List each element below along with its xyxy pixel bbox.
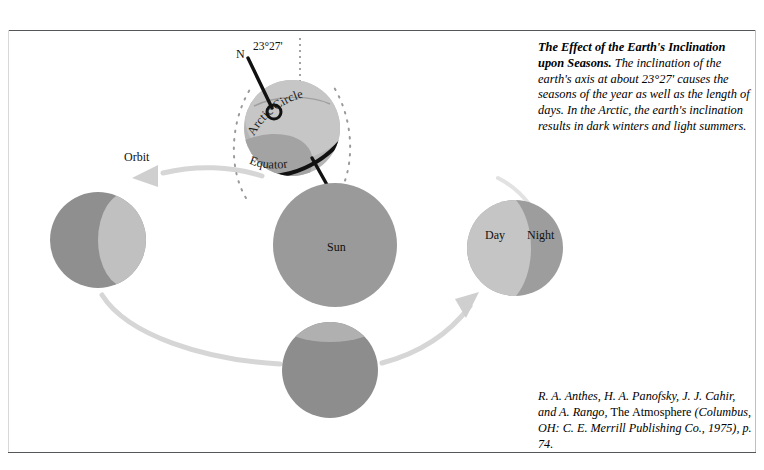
- axial-tilt-label: 23°27': [253, 40, 283, 52]
- earth-bottom-group: [282, 310, 378, 418]
- sun-label: Sun: [327, 240, 346, 255]
- earth-right-day-region: [467, 200, 531, 296]
- night-label: Night: [527, 228, 554, 243]
- figure-root: Arctic Circle Equator: [0, 0, 764, 470]
- citation-work-title: The Atmosphere: [611, 405, 692, 419]
- orbit-label: Orbit: [124, 150, 149, 165]
- orbit-arrowhead-left: [132, 165, 158, 187]
- earth-bottom-lit-cap: [284, 310, 376, 342]
- orbit-arc-upper-left: [163, 168, 262, 176]
- figure-caption: The Effect of the Earth's Inclination up…: [538, 40, 754, 135]
- orbit-arrowhead-right: [455, 292, 479, 318]
- orbit-arc-lower-left: [102, 295, 280, 364]
- north-pole-label: N: [236, 47, 245, 62]
- earth-left-day-region: [98, 192, 158, 288]
- orbit-arc-lower-right: [382, 306, 470, 363]
- day-label: Day: [485, 228, 505, 243]
- figure-citation: R. A. Anthes, H. A. Panofsky, J. J. Cahi…: [538, 389, 756, 452]
- earth-left-group: [50, 192, 158, 288]
- earth-right-group: [467, 200, 563, 296]
